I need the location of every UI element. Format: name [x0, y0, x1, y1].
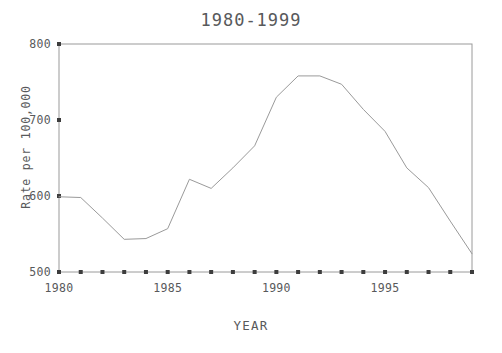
x-tick-mark — [361, 270, 365, 274]
x-tick-mark — [405, 270, 409, 274]
x-tick-mark — [122, 270, 126, 274]
x-tick-mark — [253, 270, 257, 274]
x-tick-mark — [57, 270, 61, 274]
x-tick-mark — [79, 270, 83, 274]
x-tick-mark — [340, 270, 344, 274]
y-tick-mark — [57, 118, 61, 122]
x-tick-mark — [166, 270, 170, 274]
y-tick-mark — [57, 42, 61, 46]
x-tick-mark — [187, 270, 191, 274]
x-tick-mark — [427, 270, 431, 274]
x-tick-mark — [209, 270, 213, 274]
y-tick-mark — [57, 194, 61, 198]
x-tick-mark — [448, 270, 452, 274]
y-tick-label: 700 — [17, 113, 51, 127]
x-tick-mark — [144, 270, 148, 274]
x-tick-mark — [231, 270, 235, 274]
x-tick-label: 1985 — [144, 281, 192, 295]
chart-figure: 1980-1999 Rate per 100,000 YEAR 50060070… — [0, 0, 502, 353]
y-tick-label: 600 — [17, 189, 51, 203]
x-tick-label: 1990 — [252, 281, 300, 295]
plot-canvas — [0, 0, 502, 353]
plot-border — [59, 44, 472, 272]
x-tick-label: 1980 — [35, 281, 83, 295]
x-tick-mark — [383, 270, 387, 274]
x-tick-mark — [318, 270, 322, 274]
x-tick-label: 1995 — [361, 281, 409, 295]
x-tick-mark — [470, 270, 474, 274]
x-tick-mark — [100, 270, 104, 274]
x-tick-mark — [274, 270, 278, 274]
y-tick-label: 800 — [17, 37, 51, 51]
y-tick-label: 500 — [17, 265, 51, 279]
x-tick-mark — [296, 270, 300, 274]
